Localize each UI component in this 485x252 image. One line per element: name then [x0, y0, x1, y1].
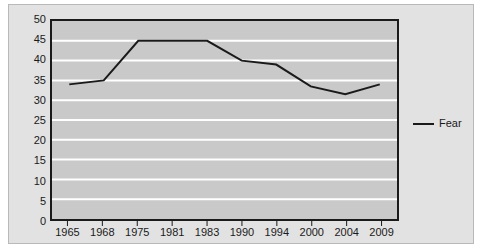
- y-axis-tick-label: 10: [9, 175, 46, 186]
- x-axis-tick-labels: 1965196819751981198319901994200020042009: [50, 225, 399, 245]
- y-axis-tick-label: 25: [9, 115, 46, 126]
- y-axis-tick-label: 5: [9, 195, 46, 206]
- chart-card: 05101520253035404550 1965196819751981198…: [8, 4, 474, 244]
- y-axis-tick-label: 0: [9, 216, 46, 227]
- y-axis-tick-label: 15: [9, 155, 46, 166]
- legend-label-fear: Fear: [439, 118, 462, 129]
- x-axis-tick-label: 1965: [55, 227, 79, 238]
- chart-legend: Fear: [413, 118, 462, 129]
- y-axis-tick-label: 20: [9, 135, 46, 146]
- legend-line-swatch-fear: [413, 123, 434, 125]
- x-axis-tick-label: 1994: [265, 227, 289, 238]
- x-axis-tick-label: 2004: [334, 227, 358, 238]
- x-axis-tick-label: 1968: [90, 227, 114, 238]
- y-axis-tick-label: 35: [9, 74, 46, 85]
- y-axis-tick-label: 30: [9, 94, 46, 105]
- y-axis-tick-labels: 05101520253035404550: [9, 19, 46, 221]
- x-axis-tick-label: 1981: [160, 227, 184, 238]
- x-axis-tick-label: 1990: [230, 227, 254, 238]
- x-axis-tick-label: 1983: [195, 227, 219, 238]
- x-axis-tick-label: 2000: [300, 227, 324, 238]
- x-axis-tick-label: 2009: [369, 227, 393, 238]
- y-axis-tick-label: 50: [9, 14, 46, 25]
- series-fear-line: [52, 21, 397, 219]
- y-axis-tick-label: 45: [9, 34, 46, 45]
- x-axis-tick-label: 1975: [125, 227, 149, 238]
- y-axis-tick-label: 40: [9, 54, 46, 65]
- plot-area: [50, 19, 399, 221]
